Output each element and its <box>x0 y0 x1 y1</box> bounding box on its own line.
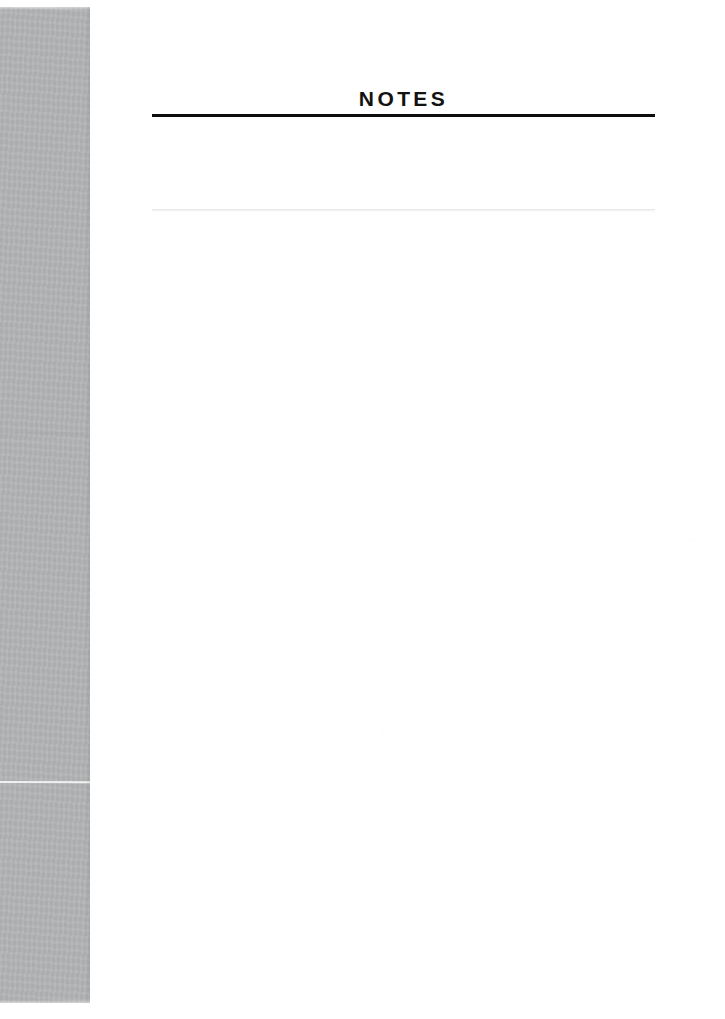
scan-gutter-band <box>0 7 90 1003</box>
gutter-bottom-fade <box>0 1000 90 1003</box>
gutter-edge-shadow <box>85 7 90 1003</box>
notes-page: NOTES <box>0 0 725 1019</box>
notes-writing-area <box>152 130 655 990</box>
gutter-seam-line <box>0 781 92 783</box>
title-rule <box>152 114 655 117</box>
notes-heading-block: NOTES <box>152 88 655 117</box>
gutter-tone-break <box>0 432 90 442</box>
gutter-paper-texture <box>0 7 90 1003</box>
gutter-top-fade <box>0 7 90 10</box>
page-title: NOTES <box>152 88 655 114</box>
